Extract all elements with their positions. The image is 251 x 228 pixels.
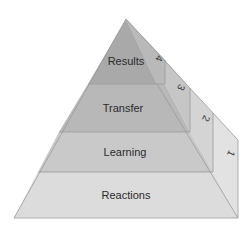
level-label-results: Results (108, 55, 145, 67)
level-label-reactions: Reactions (102, 189, 151, 201)
level-label-transfer: Transfer (103, 102, 144, 114)
pyramid-diagram: Results Transfer Learning Reactions 4 3 … (0, 0, 251, 228)
level-label-learning: Learning (104, 146, 147, 158)
